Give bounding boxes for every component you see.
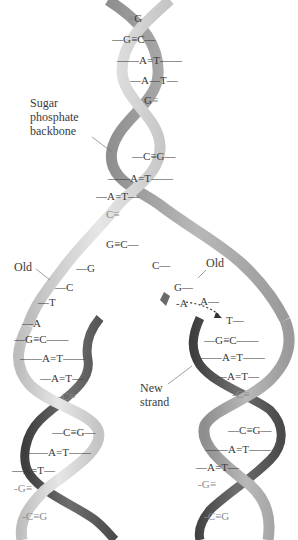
base-pair: —C≡G—	[131, 150, 177, 162]
backbone-label: Sugar phosphate backbone	[30, 96, 112, 152]
base-pair: —G≡C——	[13, 333, 70, 345]
base-pair: -G≡	[198, 478, 216, 490]
arrowhead-icon	[214, 312, 222, 318]
base-pair: —G≡C——	[203, 334, 260, 346]
base-pair: C≡	[106, 208, 120, 220]
template-base: —C	[54, 281, 73, 293]
base-pair: —C≡G—	[51, 426, 97, 438]
base-pair: —A—T—	[129, 74, 179, 86]
template-base: G—	[174, 281, 194, 293]
label-line: phosphate	[30, 110, 79, 124]
label-line: New	[140, 381, 163, 395]
base-pair: —A=T—	[215, 370, 260, 382]
leader-line	[36, 269, 50, 280]
label-text: Old	[206, 256, 224, 270]
base-pair: -C≡G	[204, 510, 229, 522]
label-text: Old	[14, 260, 32, 274]
base-pair: ——A=T——	[107, 172, 174, 184]
template-base: —A	[21, 317, 41, 329]
leader-line	[198, 270, 206, 278]
base-pair: —C≡G—	[227, 424, 273, 436]
base-pair: -C≡	[232, 388, 249, 400]
new-strand-label: New strand	[140, 366, 192, 409]
base-pair: ——A=T——	[19, 352, 86, 364]
template-base: C—	[152, 259, 171, 271]
leader-line	[168, 366, 192, 384]
base-pair: —A=T—	[11, 464, 56, 476]
parent-helix	[28, 0, 285, 325]
label-line: strand	[140, 395, 169, 409]
base-pair: G≡C—	[106, 238, 140, 250]
template-base: —G	[75, 262, 95, 274]
base-pair: ——A=T——	[25, 446, 92, 458]
dna-replication-diagram: ≡G —G≡C— ——A=T—— —A—T— G≡ —C≡G— ——A=T—— …	[0, 0, 298, 540]
base-pair: -C≡G	[22, 510, 47, 522]
base-pair: ——A=T——	[199, 351, 266, 363]
base-pair: —A=T—	[39, 372, 84, 384]
template-base: —T	[37, 296, 56, 308]
base-pair: ——A=T——	[205, 443, 272, 455]
right-template-bases: C— G— A— T— -A	[152, 259, 245, 326]
base-pair: -C≡	[58, 390, 75, 402]
label-line: backbone	[30, 124, 76, 138]
incoming-nucleotide-label: -A	[176, 297, 188, 309]
incoming-nucleotide-icon	[160, 292, 170, 306]
label-line: Sugar	[30, 96, 58, 110]
base-pair: —G≡C—	[111, 33, 157, 45]
base-pair: -G≡	[14, 482, 32, 494]
template-base: A—	[200, 295, 220, 307]
old-right-label: Old	[198, 256, 224, 278]
base-pair: ≡G	[128, 12, 142, 24]
old-left-label: Old	[14, 260, 50, 280]
base-pair: —A=T—	[95, 190, 140, 202]
base-pair: —A=T—	[195, 461, 240, 473]
base-pair: ——A=T——	[116, 54, 183, 66]
template-base: T—	[226, 314, 245, 326]
base-pair: G≡	[144, 94, 158, 106]
